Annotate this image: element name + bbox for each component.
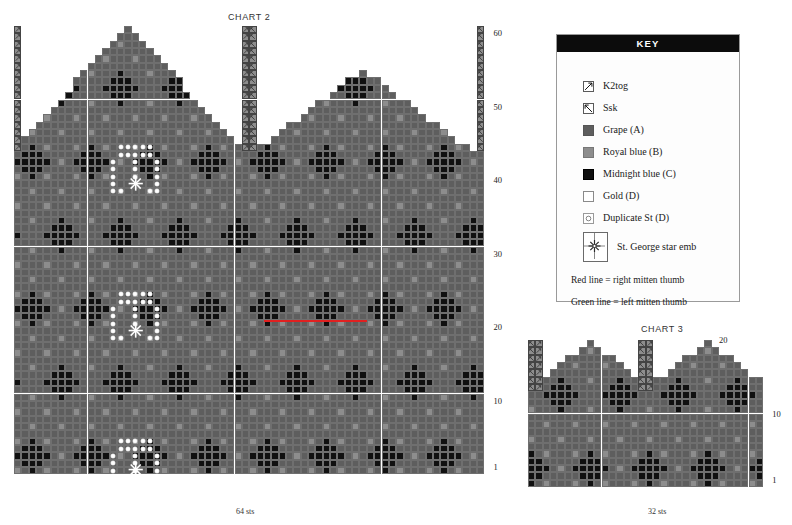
key-item: K2tog xyxy=(583,79,628,93)
gold-swatch-icon xyxy=(583,191,594,202)
chart3-row-label: 20 xyxy=(719,335,728,345)
chart2-grid xyxy=(14,26,484,474)
key-item-label: Gold (D) xyxy=(603,191,639,201)
key-item: Ssk xyxy=(583,101,617,115)
knitting-chart-page: CHART 2 64 sts 1102030405060 CHART 3 32 … xyxy=(0,0,792,525)
chart3-grid xyxy=(528,340,763,487)
chart2-row-label: 20 xyxy=(493,322,502,332)
royal-blue-swatch-icon xyxy=(583,147,594,158)
chart2-row-label: 50 xyxy=(493,102,502,112)
key-item: Grape (A) xyxy=(583,123,644,137)
st-george-star-icon xyxy=(583,232,608,262)
red-line-note: Red line = right mitten thumb xyxy=(571,275,684,285)
green-line-note: Green line = left mitten thumb xyxy=(571,297,687,307)
chart2-row-label: 40 xyxy=(493,175,502,185)
key-item: Royal blue (B) xyxy=(583,145,662,159)
chart2-row-label: 30 xyxy=(493,249,502,259)
chart2-row-label: 60 xyxy=(493,28,502,38)
key-item-label: K2tog xyxy=(603,81,628,91)
ssk-symbol-icon xyxy=(583,103,594,114)
chart2-title: CHART 2 xyxy=(228,12,270,22)
midnight-blue-swatch-icon xyxy=(583,169,594,180)
key-item-label: Ssk xyxy=(603,103,617,113)
key-item-label: Duplicate St (D) xyxy=(603,213,669,223)
key-item-label: St. George star emb xyxy=(617,242,696,252)
key-item: Gold (D) xyxy=(583,189,639,203)
key-item: St. George star emb xyxy=(583,240,696,254)
chart3-sts-label: 32 sts xyxy=(648,507,666,516)
chart2-sts-label: 64 sts xyxy=(236,507,254,516)
chart3-row-label: 10 xyxy=(772,409,781,419)
chart2-row-label: 10 xyxy=(493,396,502,406)
key-item-label: Grape (A) xyxy=(603,125,644,135)
key-header: KEY xyxy=(557,35,739,52)
key-panel: KEY K2togSskGrape (A)Royal blue (B)Midni… xyxy=(556,34,740,302)
key-item: Midnight blue (C) xyxy=(583,167,676,181)
k2tog-symbol-icon xyxy=(583,81,594,92)
key-item-label: Royal blue (B) xyxy=(603,147,662,157)
chart2-row-label: 1 xyxy=(493,462,497,472)
grape-swatch-icon xyxy=(583,125,594,136)
chart3-title: CHART 3 xyxy=(641,324,683,334)
key-item-label: Midnight blue (C) xyxy=(603,169,676,179)
duplicate-stitch-icon xyxy=(583,213,594,224)
key-item: Duplicate St (D) xyxy=(583,211,669,225)
chart3-row-label: 1 xyxy=(772,475,776,485)
